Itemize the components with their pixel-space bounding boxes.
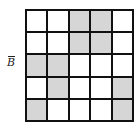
grid-cell-empty xyxy=(112,10,133,32)
grid-cell-empty xyxy=(69,54,90,76)
grid-cell-empty xyxy=(90,99,111,121)
grid-cell-empty xyxy=(90,54,111,76)
shaded-grid xyxy=(25,9,134,122)
grid-cell-empty xyxy=(112,54,133,76)
grid-cell-empty xyxy=(112,32,133,54)
grid-label-text: B xyxy=(7,56,15,69)
grid-cell-shaded xyxy=(26,99,47,121)
grid-cell-shaded xyxy=(47,77,68,99)
grid-cell-empty xyxy=(47,32,68,54)
overbar xyxy=(8,56,15,57)
grid-cell-shaded xyxy=(26,54,47,76)
grid-cell-shaded xyxy=(112,99,133,121)
grid-cell-empty xyxy=(47,10,68,32)
grid-cell-shaded xyxy=(90,10,111,32)
grid-cell-shaded xyxy=(90,32,111,54)
grid-cell-empty xyxy=(26,10,47,32)
grid-cell-empty xyxy=(47,99,68,121)
grid-cell-shaded xyxy=(69,32,90,54)
grid-cell-empty xyxy=(26,77,47,99)
grid-cell-empty xyxy=(69,99,90,121)
grid-cell-shaded xyxy=(112,77,133,99)
grid-cell-empty xyxy=(26,32,47,54)
grid-cell-shaded xyxy=(69,10,90,32)
grid-cell-shaded xyxy=(47,54,68,76)
grid-label: B xyxy=(7,57,15,69)
grid-cell-empty xyxy=(90,77,111,99)
grid-cell-empty xyxy=(69,77,90,99)
